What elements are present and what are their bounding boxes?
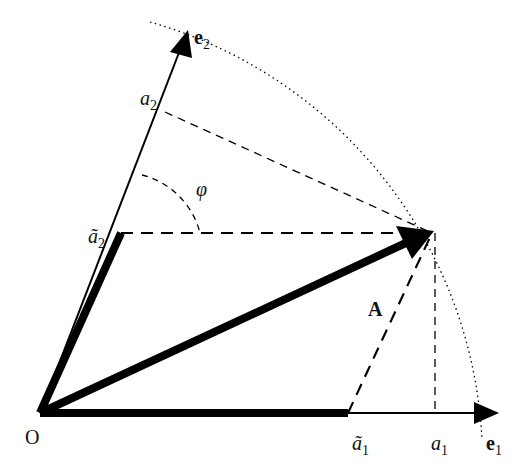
phi-label: φ [196,178,207,201]
origin-label: O [25,426,39,448]
a1-label: a1 [431,432,448,458]
a2-label: a2 [140,87,157,113]
e1-label: e1 [486,432,502,458]
vector-a-label: A [368,298,383,320]
diagram-canvas: e2 a2 φ ã2 A O ã1 a1 e1 [0,0,530,476]
e1-arrowhead [474,402,499,424]
e2-label: e2 [194,26,210,52]
a2-tilde-label: ã2 [88,225,105,251]
dash-a2-projection [165,112,432,233]
a1-tilde-label: ã1 [352,432,369,458]
e2-arrowhead [170,30,192,58]
angle-phi-arc [142,175,200,233]
a2-tilde-component [40,233,121,413]
